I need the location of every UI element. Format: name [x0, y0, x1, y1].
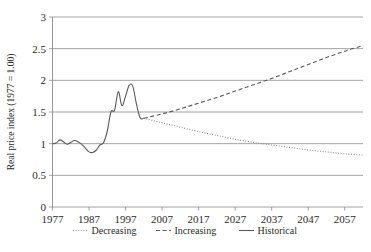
series-line-historical: [53, 84, 144, 153]
legend-label-historical: Historical: [258, 225, 298, 236]
chart-legend: DecreasingIncreasingHistorical: [73, 225, 297, 236]
gridlines: [53, 17, 364, 207]
x-tick-label: 2017: [188, 213, 211, 225]
x-tick-label: 1987: [78, 213, 101, 225]
x-tick-label: 2037: [261, 213, 284, 225]
x-tick-label: 1997: [115, 213, 138, 225]
y-axis-tick-labels: 00.511.522.53: [32, 11, 46, 213]
chart-container: 00.511.522.53 19771987199720072017202720…: [0, 0, 371, 252]
x-tick-label: 2027: [224, 213, 247, 225]
x-tick-label: 2007: [151, 213, 174, 225]
y-tick-label: 3: [41, 11, 47, 23]
series-line-decreasing: [144, 118, 363, 155]
y-tick-label: 1.5: [32, 106, 46, 118]
x-tick-label: 2047: [297, 213, 320, 225]
y-tick-label: 0.5: [32, 169, 46, 181]
x-tick-label: 2057: [334, 213, 357, 225]
y-tick-label: 1: [41, 138, 47, 150]
legend-label-increasing: Increasing: [175, 225, 217, 236]
legend-label-decreasing: Decreasing: [92, 225, 137, 236]
line-chart: 00.511.522.53 19771987199720072017202720…: [0, 0, 371, 252]
y-tick-label: 2.5: [32, 43, 46, 55]
y-tick-label: 0: [41, 201, 47, 213]
series-line-increasing: [144, 46, 363, 119]
y-tick-label: 2: [41, 74, 47, 86]
x-tick-label: 1977: [42, 213, 65, 225]
tick-marks: [49, 17, 345, 211]
y-axis-title: Real price index (1977 = 1.00): [6, 54, 17, 171]
x-axis-tick-labels: 197719871997200720172027203720472057: [42, 213, 357, 225]
